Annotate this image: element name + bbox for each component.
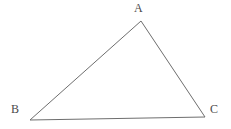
triangle-outline <box>30 21 205 120</box>
triangle-shape <box>0 0 231 129</box>
figure-canvas: A B C <box>0 0 231 129</box>
vertex-label-b: B <box>11 103 19 115</box>
vertex-label-a: A <box>134 2 143 14</box>
vertex-label-c: C <box>210 103 218 115</box>
